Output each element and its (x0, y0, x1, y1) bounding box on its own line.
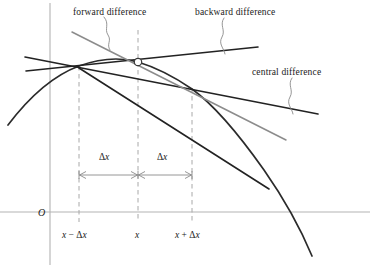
label-delta-x-right: Δx (157, 153, 167, 163)
leader-backward-difference (221, 18, 225, 54)
tick-label-x-minus-delta-x: x − Δx (62, 231, 87, 241)
leader-forward-difference (104, 17, 110, 50)
leader-lines-group (104, 17, 293, 114)
tick0-dvar: x (82, 230, 86, 240)
finite-difference-figure: forward difference backward difference c… (0, 0, 370, 267)
difference-lines-group (25, 32, 318, 189)
label-backward-difference: backward difference (195, 8, 275, 18)
axes-group (0, 3, 370, 265)
point-marker-group (134, 58, 141, 65)
label-origin: O (38, 208, 45, 218)
central-difference-line (25, 57, 318, 114)
dimension-group (79, 171, 192, 179)
label-forward-difference: forward difference (73, 8, 146, 18)
var-glyph-left: x (105, 152, 109, 162)
tick-label-x-plus-delta-x: x + Δx (175, 231, 200, 241)
tick-label-x: x (135, 231, 139, 241)
label-central-difference: central difference (252, 68, 321, 78)
label-delta-x-left: Δx (99, 153, 109, 163)
tick2-dvar: x (195, 230, 199, 240)
var-glyph-right: x (163, 152, 167, 162)
figure-canvas (0, 0, 370, 267)
point-marker-at-x (134, 58, 141, 65)
